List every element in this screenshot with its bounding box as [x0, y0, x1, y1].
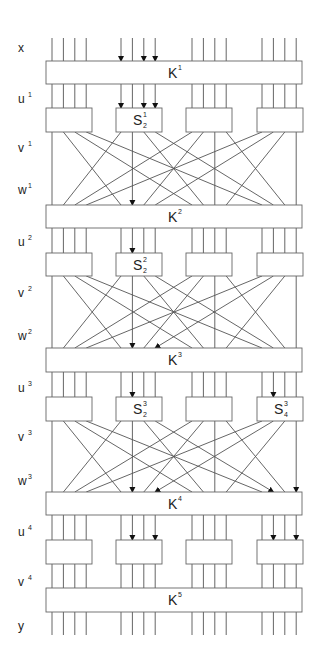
round-key-index: 3 [178, 351, 182, 358]
label-layer: xu1v1w1u2v2w2u3v3w3u4v4y [17, 41, 32, 633]
round-key-index: 5 [178, 591, 182, 598]
state-label: u [18, 381, 25, 395]
active-sbox-label: S [133, 257, 142, 273]
state-label: w [17, 329, 27, 343]
active-sbox-label: S [133, 401, 142, 417]
state-label-round: 2 [28, 285, 32, 292]
sbox [186, 253, 232, 276]
active-sbox-index: 2 [143, 411, 147, 418]
state-label: w [17, 183, 27, 197]
round-key-label: K [168, 352, 178, 368]
sbox [116, 540, 162, 564]
state-label-round: 1 [28, 91, 32, 98]
state-label: v [18, 430, 24, 444]
sbox [257, 540, 303, 564]
state-label-round: 3 [28, 473, 32, 480]
active-sbox-index: 4 [284, 411, 288, 418]
active-sbox-label: S [274, 401, 283, 417]
round-key-label: K [168, 65, 178, 81]
sbox [186, 540, 232, 564]
sbox [46, 397, 92, 421]
state-label: x [18, 41, 24, 55]
state-label-round: 1 [28, 140, 32, 147]
spn-diagram: K1K2K3K4K5S12S22S32S34 xu1v1w1u2v2w2u3v3… [0, 0, 321, 664]
state-label: u [18, 92, 25, 106]
sbox [186, 108, 232, 132]
state-label-round: 3 [28, 429, 32, 436]
round-key-index: 2 [178, 208, 182, 215]
active-sbox-index: 2 [143, 122, 147, 129]
state-label-round: 1 [28, 182, 32, 189]
state-label-round: 3 [28, 380, 32, 387]
round-key-label: K [168, 592, 178, 608]
sbox [46, 253, 92, 276]
round-key-label: K [168, 496, 178, 512]
sbox [46, 540, 92, 564]
state-label: v [18, 286, 24, 300]
state-label-round: 4 [28, 574, 32, 581]
state-label: y [18, 619, 24, 633]
state-label-round: 4 [28, 524, 32, 531]
state-label: v [18, 141, 24, 155]
state-label-round: 2 [28, 328, 32, 335]
active-sbox-round: 3 [143, 400, 147, 407]
sbox [186, 397, 232, 421]
active-sbox-round: 1 [143, 111, 147, 118]
sbox [46, 108, 92, 132]
active-sbox-round: 3 [284, 400, 288, 407]
round-key-index: 1 [178, 64, 182, 71]
state-label: u [18, 235, 25, 249]
round-key-index: 4 [178, 495, 182, 502]
state-label-round: 2 [28, 234, 32, 241]
state-label: w [17, 474, 27, 488]
active-sbox-index: 2 [143, 267, 147, 274]
active-sbox-round: 2 [143, 256, 147, 263]
state-label: u [18, 525, 25, 539]
sbox [257, 108, 303, 132]
active-sbox-label: S [133, 112, 142, 128]
round-key-label: K [168, 209, 178, 225]
sbox [257, 253, 303, 276]
state-label: v [18, 575, 24, 589]
